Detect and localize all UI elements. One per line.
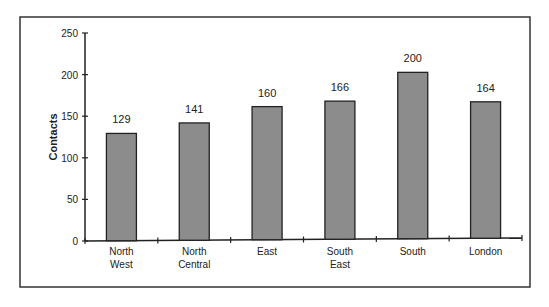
- x-tick-label: South: [400, 246, 426, 257]
- bar-london: 164London: [469, 82, 502, 257]
- x-tick-label: North: [109, 246, 133, 257]
- bar-north-west: 129NorthWest: [106, 113, 136, 270]
- x-tick-label: London: [469, 246, 502, 257]
- x-tick-label: Central: [178, 259, 210, 270]
- data-label: 166: [331, 81, 349, 93]
- y-tick-label: 50: [67, 194, 79, 205]
- x-tick-label: South: [327, 246, 353, 257]
- data-label: 200: [404, 52, 422, 64]
- y-tick-label: 250: [61, 28, 78, 39]
- data-label: 129: [112, 113, 130, 125]
- bar-east: 160East: [252, 87, 282, 257]
- y-tick-label: 150: [61, 111, 78, 122]
- y-tick-label: 100: [61, 153, 78, 164]
- x-tick-label: East: [257, 246, 277, 257]
- data-label: 141: [185, 103, 203, 115]
- data-label: 164: [476, 82, 494, 94]
- bar-chart: 050100150200250 129NorthWest141NorthCent…: [0, 0, 549, 307]
- y-axis-label: Contacts: [47, 113, 59, 160]
- x-tick-label: West: [110, 259, 133, 270]
- x-tick-label: East: [330, 259, 350, 270]
- data-label: 160: [258, 87, 276, 99]
- y-tick-label: 0: [72, 236, 78, 247]
- bar-south: 200South: [398, 52, 428, 257]
- x-tick-label: North: [182, 246, 206, 257]
- y-tick-label: 200: [61, 70, 78, 81]
